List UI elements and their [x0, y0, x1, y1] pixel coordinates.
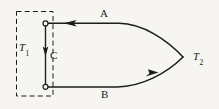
reservoir-temperature-subscript: 1: [26, 49, 30, 58]
state-node-top-icon: [43, 21, 48, 26]
apex-temperature-symbol: T: [193, 50, 199, 62]
reservoir-temperature-symbol: T: [19, 41, 25, 53]
diagram-canvas: [0, 0, 219, 109]
reservoir-temperature-label: T1: [19, 42, 29, 53]
state-node-bottom-icon: [43, 84, 48, 89]
path-b-curve: [46, 57, 184, 87]
apex-temperature-subscript: 2: [200, 58, 204, 67]
path-a-label: A: [100, 8, 108, 19]
path-b-label: B: [101, 89, 108, 100]
apex-temperature-label: T2: [193, 51, 203, 62]
path-c-label: C: [50, 50, 57, 61]
thermodynamic-cycle-figure: A B C T1 T2: [0, 0, 219, 109]
path-a-curve: [46, 23, 184, 57]
